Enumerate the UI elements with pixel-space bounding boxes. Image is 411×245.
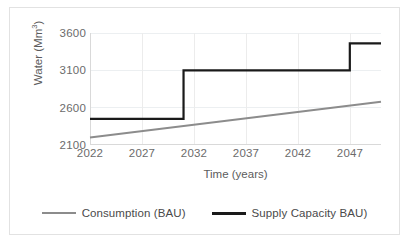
- legend-swatch-consumption: [42, 212, 76, 214]
- legend-label-supply-capacity: Supply Capacity BAU): [252, 207, 368, 219]
- y-tick-3600: 3600: [42, 27, 86, 39]
- legend-item-supply-capacity[interactable]: Supply Capacity BAU): [212, 207, 368, 219]
- y-axis-title-superscript: 3: [30, 25, 39, 29]
- y-tick-2600: 2600: [42, 102, 86, 114]
- legend-swatch-supply-capacity: [212, 212, 246, 215]
- y-axis-title-close: ): [32, 21, 44, 25]
- x-tick-2027: 2027: [119, 147, 165, 159]
- x-tick-2042: 2042: [275, 147, 321, 159]
- x-tick-2037: 2037: [223, 147, 269, 159]
- x-tick-2022: 2022: [67, 147, 113, 159]
- y-axis-tick-labels: 3600 3100 2600 2100: [38, 33, 86, 145]
- legend-label-consumption: Consumption (BAU): [82, 207, 186, 219]
- legend-item-consumption[interactable]: Consumption (BAU): [42, 207, 186, 219]
- y-tick-3100: 3100: [42, 64, 86, 76]
- x-axis-tick-labels: 2022 2027 2032 2037 2042 2047: [90, 147, 381, 165]
- x-tick-2047: 2047: [327, 147, 373, 159]
- x-axis-title: Time (years): [90, 168, 381, 180]
- plot-area: [90, 33, 381, 145]
- chart-legend: Consumption (BAU) Supply Capacity BAU): [10, 202, 399, 224]
- chart-container: Water (Mm3) 3600 3100 2600 2100 2022 202…: [9, 7, 400, 235]
- series-layer: [90, 33, 381, 145]
- x-tick-2032: 2032: [171, 147, 217, 159]
